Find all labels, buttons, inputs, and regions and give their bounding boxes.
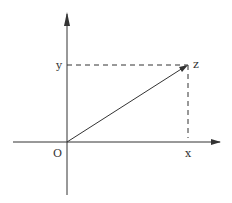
y-axis-arrowhead-icon bbox=[64, 12, 70, 26]
label-y: y bbox=[55, 59, 63, 72]
label-z: z bbox=[193, 58, 199, 71]
diagram-svg: y z O x bbox=[0, 0, 232, 203]
diagram-canvas: y z O x bbox=[0, 0, 232, 203]
vector-arrowhead-icon bbox=[179, 65, 188, 72]
label-origin: O bbox=[53, 147, 62, 160]
vector-oz bbox=[67, 66, 186, 142]
label-x: x bbox=[185, 147, 192, 160]
